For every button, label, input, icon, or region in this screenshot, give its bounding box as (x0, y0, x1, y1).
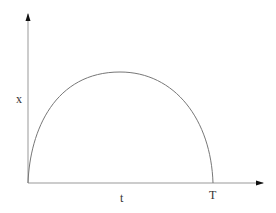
trajectory-curve (28, 72, 213, 183)
x-axis-label: t (120, 192, 123, 204)
y-axis-label: x (16, 93, 22, 105)
end-time-label: T (209, 189, 216, 201)
diagram-canvas (0, 0, 276, 213)
